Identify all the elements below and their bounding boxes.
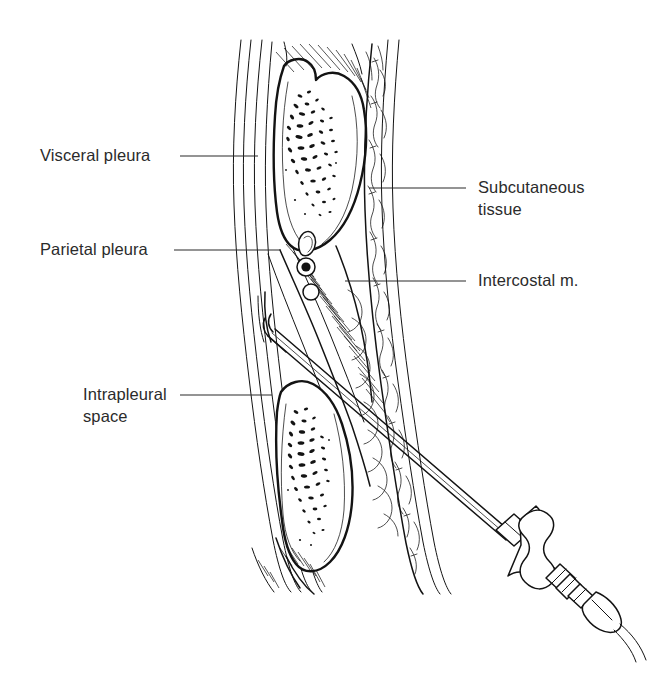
thoracentesis-illustration: Visceral pleura Parietal pleura Intraple… bbox=[0, 0, 672, 673]
anatomical-figure: Visceral pleura Parietal pleura Intraple… bbox=[0, 0, 672, 673]
label-visceral-pleura: Visceral pleura bbox=[40, 146, 151, 164]
intercostal-nerve bbox=[303, 284, 319, 300]
label-subcutaneous-tissue-line1: Subcutaneous bbox=[478, 178, 585, 196]
intercostal-artery bbox=[297, 258, 315, 276]
label-intercostal-muscle: Intercostal m. bbox=[478, 271, 578, 289]
label-parietal-pleura: Parietal pleura bbox=[40, 240, 149, 258]
label-intrapleural-space-line1: Intrapleural bbox=[83, 385, 167, 403]
label-intrapleural-space-line2: space bbox=[83, 407, 128, 425]
label-subcutaneous-tissue-line2: tissue bbox=[478, 200, 522, 218]
